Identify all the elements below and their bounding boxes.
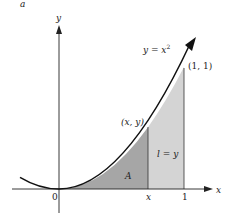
x-axis-label: x [216,185,221,195]
strip-label: l = y [157,149,179,159]
one-tick-label: 1 [182,192,188,202]
equation-base: y = x [142,45,166,55]
equation-exponent: 2 [166,43,170,50]
y-axis-arrow-icon [56,25,62,34]
equation-label: y = x2 [142,43,170,55]
curve-arrow-icon [185,37,196,51]
parabola-area-diagram: a y x 0 x 1 y = x2 (1, 1) (x, y) A l = y [0,0,231,218]
origin-label: 0 [52,192,58,202]
moving-point-label: (x, y) [121,117,144,127]
end-point-label: (1, 1) [188,61,212,71]
area-a-label: A [124,171,132,181]
strip-region [148,67,184,189]
y-axis-label: y [55,13,62,23]
x-axis-arrow-icon [204,186,213,192]
x-tick-label: x [146,192,151,202]
corner-label: a [20,0,25,9]
area-region-a [59,127,148,189]
